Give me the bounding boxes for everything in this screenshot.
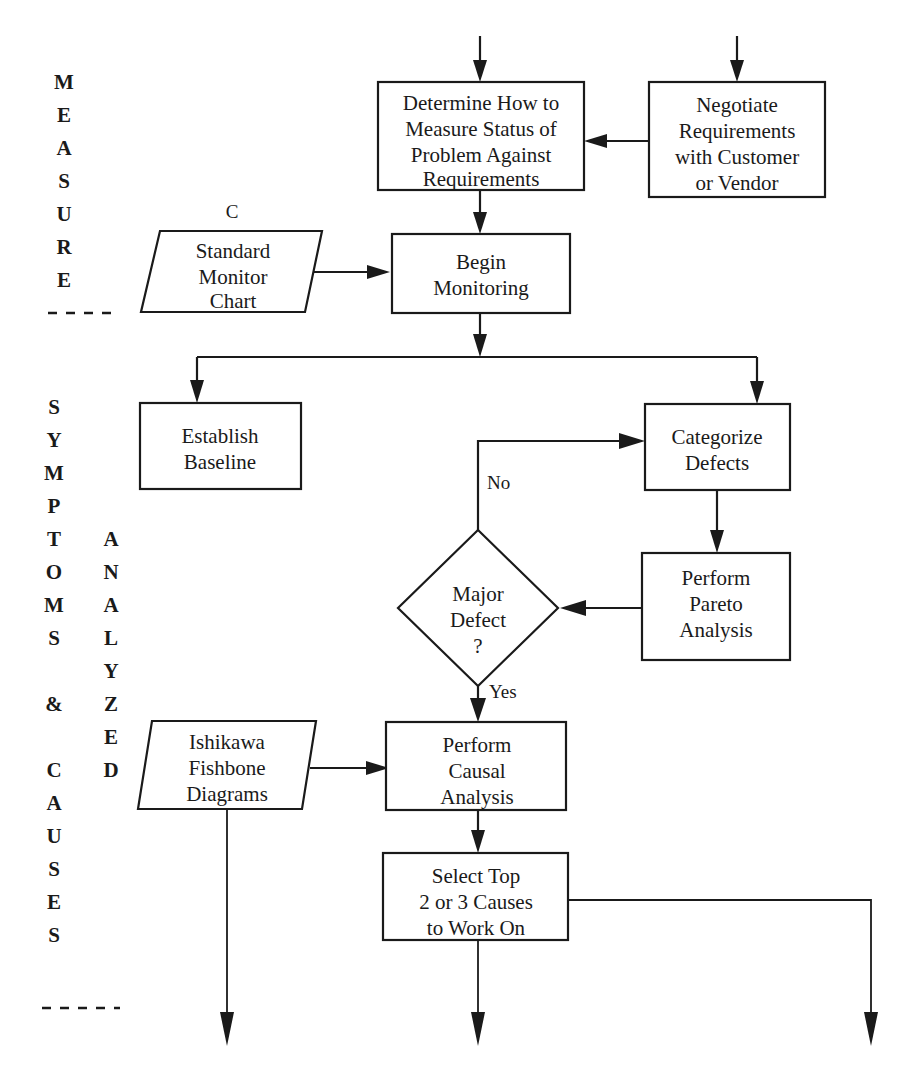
node-text-line: Monitor [199, 265, 268, 289]
band-letter: S [48, 857, 60, 881]
node-ishikawa-fishbone[interactable]: Ishikawa Fishbone Diagrams [138, 721, 316, 809]
node-major-defect-decision[interactable]: Major Defect ? [398, 530, 558, 686]
node-text-line: Determine How to [403, 91, 559, 115]
node-text-line: Causal [448, 759, 505, 783]
arrowhead-select-down [471, 1012, 485, 1046]
node-text-line: Major [452, 582, 503, 606]
band-letter: E [104, 725, 118, 749]
node-standard-monitor-chart[interactable]: C Standard Monitor Chart [141, 201, 322, 313]
node-text-line: to Work On [427, 916, 526, 940]
flowchart-svg: M E A S U R E S Y M P T O M S & C A U S … [0, 0, 913, 1075]
arrowhead-chart-to-begin [367, 265, 390, 279]
band-letter: A [103, 527, 119, 551]
node-select-top-causes[interactable]: Select Top 2 or 3 Causes to Work On [383, 853, 568, 940]
band-letter: E [47, 890, 61, 914]
band-letter: M [44, 461, 64, 485]
node-text-line: Perform [682, 566, 751, 590]
band-letter: Y [46, 428, 61, 452]
node-negotiate-requirements[interactable]: Negotiate Requirements with Customer or … [649, 82, 825, 197]
node-text-line: Requirements [423, 167, 540, 191]
band-letter: Y [103, 659, 118, 683]
node-text-line: Negotiate [696, 93, 778, 117]
node-text-line: Ishikawa [189, 730, 265, 754]
node-text-line: Requirements [679, 119, 796, 143]
node-determine-measure[interactable]: Determine How to Measure Status of Probl… [378, 82, 584, 191]
band-letter: P [48, 494, 61, 518]
band-letter: A [46, 791, 62, 815]
arrowhead-entry-determine [473, 60, 487, 82]
node-text-line: Problem Against [411, 143, 552, 167]
node-text-line: Monitoring [433, 276, 529, 300]
arrowhead-begin-to-split [473, 334, 487, 357]
band-letter: A [103, 593, 119, 617]
node-text-line: Select Top [432, 864, 521, 888]
edge-label-no: No [487, 472, 510, 493]
node-text-line: Defects [685, 451, 749, 475]
band-letter: M [54, 70, 74, 94]
node-text-line: with Customer [675, 145, 799, 169]
band-letter: S [48, 626, 60, 650]
arrowhead-categorize-to-pareto [710, 530, 724, 553]
arrowhead-split-to-categorize [750, 381, 764, 404]
node-text-line: Establish [182, 424, 259, 448]
node-text-line: Chart [210, 289, 257, 313]
node-perform-pareto-analysis[interactable]: Perform Pareto Analysis [642, 553, 790, 660]
node-text-line: Perform [443, 733, 512, 757]
band-letter: T [47, 527, 61, 551]
band-letter: E [57, 103, 71, 127]
node-text-line: or Vendor [695, 171, 778, 195]
node-text-line: Baseline [184, 450, 256, 474]
band-letter: C [46, 758, 61, 782]
node-text-line: Begin [456, 250, 507, 274]
arrowhead-decision-no [619, 433, 645, 449]
band-letter: & [45, 692, 63, 716]
corner-label-c: C [226, 201, 239, 222]
node-text-line: ? [473, 634, 482, 658]
band-letter: S [48, 923, 60, 947]
arrowhead-split-to-establish [190, 380, 204, 403]
band-letter: O [46, 560, 62, 584]
node-text-line: Measure Status of [405, 117, 557, 141]
node-begin-monitoring[interactable]: Begin Monitoring [392, 234, 570, 313]
band-letter: Z [104, 692, 118, 716]
band-label-symptoms-causes: S Y M P T O M S & C A U S E S [44, 395, 64, 947]
node-text-line: Analysis [679, 618, 753, 642]
arrowhead-decision-yes [470, 698, 486, 722]
arrowhead-ishikawa-down [220, 1012, 234, 1046]
band-letter: L [104, 626, 118, 650]
node-text-line: Diagrams [186, 782, 268, 806]
node-text-line: Defect [450, 608, 506, 632]
band-letter: E [57, 268, 71, 292]
band-label-measure: M E A S U R E [54, 70, 74, 292]
node-text-line: Fishbone [188, 756, 265, 780]
arrowhead-entry-negotiate [730, 60, 744, 82]
node-categorize-defects[interactable]: Categorize Defects [645, 404, 790, 490]
node-text-line: Analysis [440, 785, 514, 809]
band-letter: D [103, 758, 118, 782]
arrowhead-negotiate-to-determine [584, 134, 607, 148]
edge-label-yes: Yes [489, 681, 517, 702]
band-letter: M [44, 593, 64, 617]
arrowhead-determine-to-begin [473, 212, 487, 234]
band-letter: A [56, 136, 72, 160]
arrowhead-pareto-to-decision [560, 600, 586, 616]
node-text-line: Pareto [689, 592, 743, 616]
arrowhead-select-right-down [864, 1012, 878, 1046]
band-letter: N [103, 560, 118, 584]
band-letter: U [56, 202, 71, 226]
connector-select-right-down [568, 900, 871, 1030]
node-perform-causal-analysis[interactable]: Perform Causal Analysis [386, 722, 566, 810]
node-establish-baseline[interactable]: Establish Baseline [140, 403, 301, 489]
band-letter: R [56, 235, 72, 259]
node-text-line: Standard [196, 239, 271, 263]
band-letter: S [58, 169, 70, 193]
flowchart-canvas: M E A S U R E S Y M P T O M S & C A U S … [0, 0, 913, 1075]
band-letter: S [48, 395, 60, 419]
node-text-line: 2 or 3 Causes [419, 890, 533, 914]
arrowhead-causal-to-select [471, 830, 485, 853]
band-letter: U [46, 824, 61, 848]
band-label-analyzed: A N A L Y Z E D [103, 527, 119, 782]
node-text-line: Categorize [672, 425, 763, 449]
